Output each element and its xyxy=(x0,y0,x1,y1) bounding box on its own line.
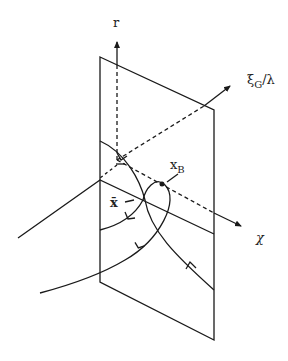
xb-label: xB xyxy=(170,158,185,171)
phase-space-diagram xyxy=(0,0,288,361)
xbar-label: x̄ xyxy=(110,196,118,209)
xi-axis-arrow xyxy=(204,86,230,106)
diagram: r ξG/λ χ xB x̄ xyxy=(0,0,288,361)
origin-link-dashed xyxy=(100,165,117,178)
flow-arrow-2 xyxy=(134,242,145,249)
xb-pointer xyxy=(167,174,178,182)
trajectory-arc xyxy=(100,200,143,230)
xb-point xyxy=(160,182,165,187)
xbar-pointer xyxy=(125,200,134,202)
xi-axis-dashed xyxy=(117,106,204,160)
r-axis-label: r xyxy=(113,16,119,29)
trajectory-loop xyxy=(40,182,170,293)
chi-axis-label: χ xyxy=(256,231,264,244)
chi-axis-arrow xyxy=(214,213,241,226)
xi-axis-label: ξG/λ xyxy=(247,73,275,86)
